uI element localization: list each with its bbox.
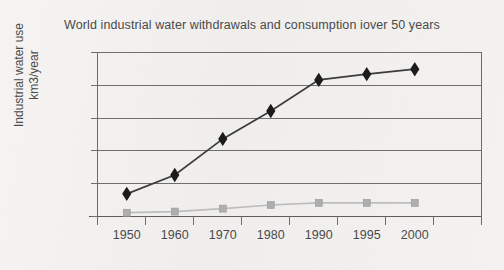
data-point-consumption-2000 — [411, 199, 418, 206]
data-point-consumption-1960 — [171, 208, 178, 215]
y-axis-title-line-2: km3/year — [27, 0, 42, 160]
x-tick-mark-4 — [289, 216, 290, 225]
chart-title: World industrial water withdrawals and c… — [0, 18, 504, 32]
plot-right-border — [481, 52, 482, 216]
data-point-consumption-1990 — [315, 199, 322, 206]
plot-area: 10008006004002000 1950196019701980199019… — [97, 52, 481, 216]
data-series-layer — [97, 52, 481, 216]
data-point-withdrawals-1970 — [218, 132, 227, 146]
x-tick-mark-0 — [97, 216, 98, 225]
data-point-withdrawals-2000 — [410, 62, 419, 76]
data-point-withdrawals-1995 — [362, 67, 371, 81]
data-point-withdrawals-1960 — [170, 168, 179, 182]
data-point-consumption-1950 — [123, 209, 130, 216]
x-tick-label-2000: 2000 — [385, 228, 445, 242]
data-point-withdrawals-1990 — [314, 73, 323, 87]
x-tick-mark-6 — [385, 216, 386, 225]
data-point-withdrawals-1950 — [122, 187, 131, 201]
series-line-withdrawals — [127, 69, 415, 194]
chart-figure: World industrial water withdrawals and c… — [0, 0, 504, 270]
x-tick-mark-1 — [145, 216, 146, 225]
x-tick-mark-7 — [433, 216, 434, 225]
data-point-consumption-1980 — [267, 202, 274, 209]
data-point-withdrawals-1980 — [266, 104, 275, 118]
x-tick-mark-8 — [481, 216, 482, 225]
data-point-consumption-1995 — [363, 199, 370, 206]
y-axis-title-line-1: Industrial water use — [12, 0, 27, 160]
data-point-consumption-1970 — [219, 205, 226, 212]
x-tick-mark-5 — [337, 216, 338, 225]
x-tick-mark-2 — [193, 216, 194, 225]
x-tick-mark-3 — [241, 216, 242, 225]
y-axis-title: Industrial water use km3/year — [12, 0, 42, 160]
